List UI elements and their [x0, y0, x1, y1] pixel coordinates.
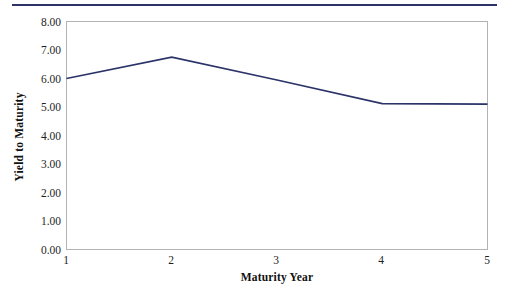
- x-tick-label: 1: [63, 254, 69, 266]
- y-tick-label: 7.00: [41, 44, 61, 56]
- y-axis-tick-labels: 8.00 7.00 6.00 5.00 4.00 3.00 2.00 1.00 …: [41, 16, 61, 256]
- x-tick-label: 2: [168, 254, 174, 266]
- y-tick-label: 5.00: [41, 101, 61, 113]
- x-tick-label: 5: [484, 254, 490, 266]
- x-tick-label: 3: [273, 254, 279, 266]
- x-axis-tick-labels: 1 2 3 4 5: [63, 254, 490, 266]
- y-tick-label: 6.00: [41, 73, 61, 85]
- y-tick-label: 0.00: [41, 244, 61, 256]
- y-tick-label: 8.00: [41, 16, 61, 28]
- yield-curve-chart: 8.00 7.00 6.00 5.00 4.00 3.00 2.00 1.00 …: [0, 0, 508, 288]
- y-tick-label: 3.00: [41, 158, 61, 170]
- y-tick-label: 1.00: [41, 215, 61, 227]
- plot-area-frame: [67, 22, 488, 250]
- x-tick-label: 4: [378, 254, 384, 266]
- y-axis-title: Yield to Maturity: [13, 92, 26, 181]
- figure-container: 8.00 7.00 6.00 5.00 4.00 3.00 2.00 1.00 …: [0, 0, 508, 288]
- y-tick-label: 4.00: [41, 130, 61, 142]
- y-tick-label: 2.00: [41, 187, 61, 199]
- x-axis-title: Maturity Year: [241, 271, 314, 284]
